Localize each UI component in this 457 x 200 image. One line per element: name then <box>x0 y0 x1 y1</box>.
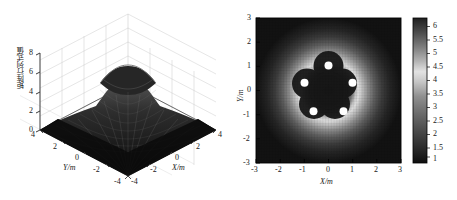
axis-label-y-2d: Y/m <box>236 90 245 102</box>
ytick3d-4: 4 <box>31 131 35 139</box>
xtick2d-2: 2 <box>374 166 378 174</box>
ytick2d-m3: -3 <box>243 159 250 167</box>
heatmap-canvas <box>230 0 457 200</box>
cbtick-5p5: 5.5 <box>433 36 443 44</box>
heatmap-2d-panel: 3 2 1 0 -1 -2 -3 Y/m -3 -2 -1 0 1 2 3 X/… <box>230 0 457 200</box>
sensor-node <box>301 79 309 87</box>
ytick3d-2: 2 <box>53 143 57 151</box>
surface-3d-panel: 矩阵行列式值 <box>0 0 230 200</box>
sensor-node <box>349 79 357 87</box>
sensor-node <box>310 107 318 115</box>
axis-label-y-3d: Y/m <box>63 164 75 172</box>
xtick3d-2: 2 <box>196 143 200 151</box>
colorbar-ticks <box>427 27 430 158</box>
ytick3d-0: 0 <box>75 154 79 162</box>
xtick2d-1: 1 <box>350 166 354 174</box>
axis-label-x-2d: X/m <box>320 178 333 186</box>
cbtick-1p5: 1.5 <box>433 144 443 152</box>
xtick3d-m2: -2 <box>150 166 157 174</box>
xtick3d-m4: -4 <box>131 178 138 186</box>
surface-3d-canvas <box>0 0 230 200</box>
ytick2d-2: 2 <box>247 38 251 46</box>
ytick2d-3: 3 <box>247 14 251 22</box>
ztick-4: 4 <box>29 88 33 96</box>
colorbar-gradient <box>413 18 427 163</box>
cbtick-2: 2 <box>433 130 437 138</box>
ztick-6: 6 <box>29 68 33 76</box>
sensor-node <box>340 107 348 115</box>
cbtick-6: 6 <box>433 22 437 30</box>
xtick3d-4: 4 <box>218 131 222 139</box>
xtick2d-m1: -1 <box>299 166 306 174</box>
figure-root: 矩阵行列式值 <box>0 0 457 200</box>
ytick3d-m4: -4 <box>114 178 121 186</box>
axis-z <box>36 53 40 132</box>
cbtick-1: 1 <box>433 155 437 163</box>
ytick3d-m2: -2 <box>93 166 100 174</box>
sensor-node <box>325 62 333 70</box>
cbtick-3p5: 3.5 <box>433 90 443 98</box>
xtick2d-m3: -3 <box>251 166 258 174</box>
xtick2d-3: 3 <box>398 166 402 174</box>
xtick2d-0: 0 <box>326 166 330 174</box>
cbtick-4p5: 4.5 <box>433 63 443 71</box>
ztick-8: 8 <box>29 49 33 57</box>
ytick2d-1: 1 <box>247 62 251 70</box>
ytick2d-0: 0 <box>247 86 251 94</box>
ztick-2: 2 <box>29 107 33 115</box>
heatmap-field <box>256 18 401 163</box>
axis-label-x-3d: X/m <box>172 164 185 172</box>
cbtick-4: 4 <box>433 76 437 84</box>
ytick2d-m1: -1 <box>243 111 250 119</box>
xtick2d-m2: -2 <box>275 166 282 174</box>
xtick3d-0: 0 <box>175 154 179 162</box>
cbtick-2p5: 2.5 <box>433 117 443 125</box>
cbtick-5: 5 <box>433 49 437 57</box>
ytick2d-m2: -2 <box>243 135 250 143</box>
surface-mesh <box>40 65 216 176</box>
cbtick-3: 3 <box>433 103 437 111</box>
